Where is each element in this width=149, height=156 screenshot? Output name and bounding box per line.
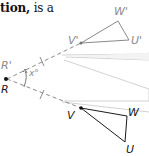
preimage-triangle xyxy=(81,108,127,142)
label-u: U xyxy=(126,143,134,156)
ray-to-v-prime xyxy=(7,43,81,79)
label-w: W xyxy=(128,106,140,119)
rotation-diagram: R' R x° V' W' U' V W U xyxy=(0,0,149,156)
v-point xyxy=(79,106,83,110)
label-v-prime: V' xyxy=(68,34,79,47)
tick-mark-lower xyxy=(40,90,44,99)
label-r: R xyxy=(1,83,9,96)
label-u-prime: U' xyxy=(131,34,142,47)
label-w-prime: W' xyxy=(114,5,128,18)
label-r-prime: R' xyxy=(1,59,12,72)
center-point xyxy=(4,77,8,81)
v-prime-point xyxy=(79,41,82,44)
label-angle: x° xyxy=(28,68,39,78)
tick-mark-upper xyxy=(40,57,44,66)
image-triangle xyxy=(81,21,129,43)
angle-arc xyxy=(24,71,26,87)
rotation-wedge xyxy=(62,52,149,112)
ray-to-v xyxy=(7,79,81,108)
label-v: V xyxy=(67,109,76,122)
